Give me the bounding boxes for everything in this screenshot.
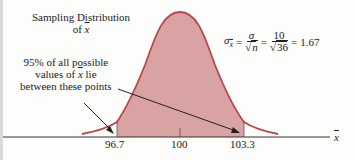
frac1-denominator: n	[251, 40, 258, 53]
formula-result: 1.67	[300, 36, 319, 48]
x-axis-label: x	[334, 131, 339, 143]
annotation-line1: 95% of all possible	[20, 56, 112, 68]
tick-label-103-3: 103.3	[230, 138, 255, 150]
tick-label-96-7: 96.7	[105, 138, 124, 150]
standard-error-formula: σx = σ√n = 10√36 = 1.67	[224, 30, 320, 53]
annotation-line3: between these points	[20, 80, 112, 92]
title-line2: of	[73, 23, 85, 35]
annotation-95-percent: 95% of all possible values of x lie betw…	[20, 56, 112, 92]
x-bar-symbol: x	[85, 23, 90, 35]
x-bar-subscript: x	[229, 40, 233, 49]
annotation-line2-prefix: values of	[35, 68, 78, 80]
tick-label-100: 100	[171, 138, 188, 150]
title-line1: Sampling Distribution	[32, 11, 130, 23]
sampling-distribution-diagram: Sampling Distribution of x 95% of all po…	[0, 0, 355, 160]
annotation-line2-suffix: lie	[83, 68, 97, 80]
frac2-denominator: 36	[276, 40, 288, 53]
diagram-title: Sampling Distribution of x	[32, 11, 130, 35]
